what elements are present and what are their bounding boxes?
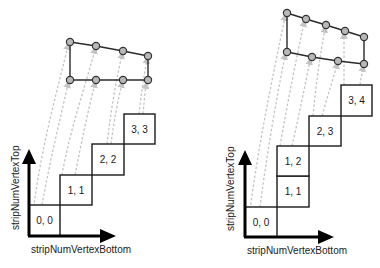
- cell: 3, 4: [341, 85, 372, 116]
- strip-diagram: 0, 0 1, 1 2, 2 3, 3 stripNumVertexBottom…: [0, 0, 380, 268]
- dashed-arrow: [360, 68, 363, 85]
- top-vertex: [66, 38, 73, 45]
- left-cells: 0, 0 1, 1 2, 2 3, 3: [29, 114, 155, 236]
- cell: 1, 2: [277, 146, 309, 176]
- dashed-arrow: [111, 84, 122, 144]
- cell: 3, 3: [124, 114, 155, 144]
- left-strip-polygon: [70, 42, 148, 80]
- top-vertex: [360, 33, 367, 40]
- left-vertices: [66, 38, 151, 83]
- x-axis-arrow-icon: [100, 229, 116, 243]
- bottom-vertex: [334, 57, 341, 64]
- cell: 2, 2: [92, 144, 124, 175]
- dashed-arrow: [322, 65, 337, 116]
- bottom-vertex: [144, 76, 151, 83]
- cell-label: 1, 1: [285, 186, 302, 197]
- y-axis-arrow-icon: [22, 149, 36, 164]
- top-vertex: [119, 47, 126, 54]
- cell-label: 3, 4: [348, 95, 365, 106]
- cell: 0, 0: [29, 205, 60, 236]
- top-vertex: [144, 52, 151, 59]
- cell-label: 1, 1: [68, 185, 85, 196]
- bottom-vertex: [92, 76, 99, 83]
- bottom-vertex: [360, 60, 367, 67]
- cell: 1, 1: [277, 176, 309, 207]
- top-vertex: [92, 42, 99, 49]
- top-vertex: [322, 21, 329, 28]
- cell: 1, 1: [60, 175, 92, 205]
- cell-label: 1, 2: [285, 156, 302, 167]
- y-axis-label: stripNumVertexTop: [225, 146, 236, 231]
- dashed-arrow: [143, 85, 146, 114]
- right-cells: 0, 0 1, 1 1, 2 2, 3 3, 4: [245, 85, 372, 237]
- dashed-arrow: [292, 61, 310, 146]
- dashed-arrow: [107, 55, 122, 144]
- cell-label: 0, 0: [253, 217, 270, 228]
- bottom-vertex: [308, 53, 315, 60]
- cell: 2, 3: [309, 116, 341, 146]
- cell-label: 3, 3: [131, 124, 148, 135]
- dashed-arrow: [139, 60, 147, 114]
- bottom-vertex: [66, 76, 73, 83]
- dashed-arrow: [313, 29, 325, 116]
- top-vertex: [283, 9, 290, 16]
- top-vertex: [341, 27, 348, 34]
- top-vertex: [302, 15, 309, 22]
- x-axis-label: stripNumVertexBottom: [31, 244, 131, 255]
- dashed-arrow: [280, 23, 304, 146]
- cell: 0, 0: [245, 207, 277, 237]
- y-axis-arrow-icon: [238, 150, 252, 165]
- right-strip-polygon: [287, 13, 364, 64]
- x-axis-arrow-icon: [318, 230, 334, 244]
- cell-label: 0, 0: [36, 215, 53, 226]
- x-axis-label: stripNumVertexBottom: [247, 245, 347, 256]
- y-axis-label: stripNumVertexTop: [10, 145, 21, 230]
- bottom-vertex: [119, 76, 126, 83]
- bottom-vertex: [283, 48, 290, 55]
- cell-label: 2, 3: [317, 126, 334, 137]
- left-panel: 0, 0 1, 1 2, 2 3, 3 stripNumVertexBottom…: [10, 38, 155, 255]
- right-panel: 0, 0 1, 1 1, 2 2, 3 3, 4: [225, 9, 372, 256]
- cell-label: 2, 2: [100, 154, 117, 165]
